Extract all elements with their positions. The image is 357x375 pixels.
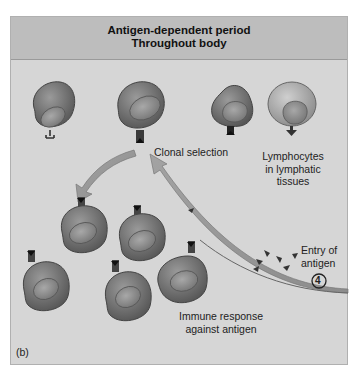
immune-response-label: Immune response against antigen [166,310,276,335]
clone-cell-icon [158,241,207,303]
lymphocyte-y-receptor-icon [33,82,74,138]
clone-cell-icon [105,260,151,321]
lymphocyte-arrow-receptor-icon [268,82,316,136]
antigen-icon [253,266,259,272]
lymphocyte-selected-icon [118,82,164,143]
entry-label-line1: Entry of [301,244,337,257]
immune-label-line2: against antigen [166,323,276,336]
step-number: 4 [315,275,321,288]
entry-label-line2: antigen [301,257,337,270]
clone-cell-icon [119,205,165,261]
lymphocytes-label-line2: in lymphatic [258,163,328,176]
antigen-icon [292,253,298,259]
lymphocytes-label-line1: Lymphocytes [258,150,328,163]
antigen-icon [276,256,282,263]
proliferation-arrow-icon [76,150,136,202]
immune-label-line1: Immune response [166,310,276,323]
entry-of-antigen-label: Entry of antigen [301,244,337,269]
clone-cell-icon [61,197,107,253]
clonal-selection-label: Clonal selection [154,146,228,159]
clone-cell-icon [23,250,69,311]
antigen-icon [264,250,270,257]
antigen-icon [283,265,290,271]
lymphocytes-label: Lymphocytes in lymphatic tissues [258,150,328,188]
lymphocytes-label-line3: tissues [258,175,328,188]
antigen-particles [188,208,298,272]
lymphocyte-dark-receptor-icon [212,85,253,135]
panel-label: (b) [16,346,29,359]
